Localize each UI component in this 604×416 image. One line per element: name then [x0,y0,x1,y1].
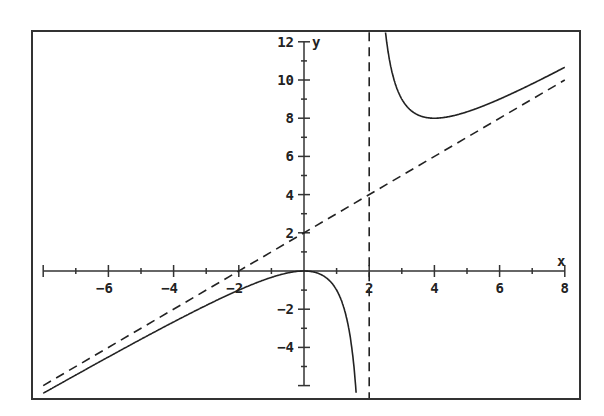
x-tick-label: −6 [96,280,113,296]
x-tick-label: 6 [495,280,503,296]
x-tick-label: 4 [430,280,438,296]
y-tick-label: −2 [277,301,294,317]
y-tick-label: 6 [286,148,294,164]
x-tick-label: −4 [161,280,178,296]
y-tick-label: 2 [286,225,294,241]
y-axis-label: y [312,34,321,50]
y-tick-label: −4 [277,339,294,355]
function-plot: −6−4−22468−4−224681012 x y [0,0,604,416]
y-tick-label: 10 [277,72,294,88]
y-tick-label: 4 [286,187,294,203]
y-tick-label: 12 [277,34,294,50]
x-tick-label: 8 [561,280,569,296]
x-tick-label: −2 [226,280,243,296]
x-axis-label: x [557,253,566,269]
x-tick-label: 2 [365,280,373,296]
y-tick-label: 8 [286,110,294,126]
